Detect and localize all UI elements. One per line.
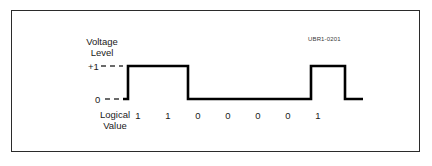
waveform-plot — [0, 0, 432, 166]
x-tick-label: 0 — [281, 110, 295, 121]
y-axis-title-line2: Level — [76, 48, 128, 59]
document-id-label: UBR1-0201 — [308, 36, 341, 43]
figure-container: Voltage Level +1 0 Logical Value UBR1-02… — [0, 0, 432, 166]
x-axis-title-line2: Value — [92, 121, 138, 132]
x-tick-label: 0 — [251, 110, 265, 121]
y-tick-label-zero: 0 — [95, 95, 100, 106]
x-tick-label: 0 — [221, 110, 235, 121]
x-tick-label: 1 — [161, 110, 175, 121]
y-tick-label-high: +1 — [88, 62, 99, 73]
y-axis-title: Voltage Level — [76, 37, 128, 58]
signal-trace — [123, 66, 363, 99]
x-tick-label: 0 — [191, 110, 205, 121]
x-tick-label: 1 — [131, 110, 145, 121]
x-tick-label: 1 — [311, 110, 325, 121]
